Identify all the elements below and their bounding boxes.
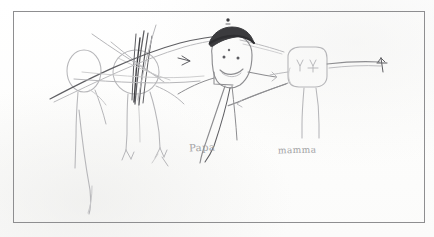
figure-mamma: [270, 47, 387, 138]
papa-nose: [228, 49, 230, 51]
hands-fingers-group: [122, 148, 168, 166]
mamma-face-mark-left: [297, 60, 303, 71]
papa-eye-right: [237, 57, 240, 60]
papa-label: Papa: [189, 141, 216, 153]
figure-left-outer: [67, 50, 106, 214]
pencil-drawing: .g { fill:none; stroke:#8d8d90; stroke-l…: [0, 0, 434, 237]
arrow-mark-left-of-papa: [178, 56, 190, 65]
mamma-label: mamma: [278, 144, 317, 155]
mamma-right-hand: [377, 58, 387, 72]
upper-right-sweep-line: [240, 40, 284, 54]
papa-eye-left: [223, 56, 226, 59]
dot-above-head: [226, 18, 229, 21]
scanned-drawing-page: .g { fill:none; stroke:#8d8d90; stroke-l…: [0, 0, 434, 237]
figure-left-inner: [113, 50, 184, 150]
mamma-face-mark-right: [308, 60, 318, 72]
